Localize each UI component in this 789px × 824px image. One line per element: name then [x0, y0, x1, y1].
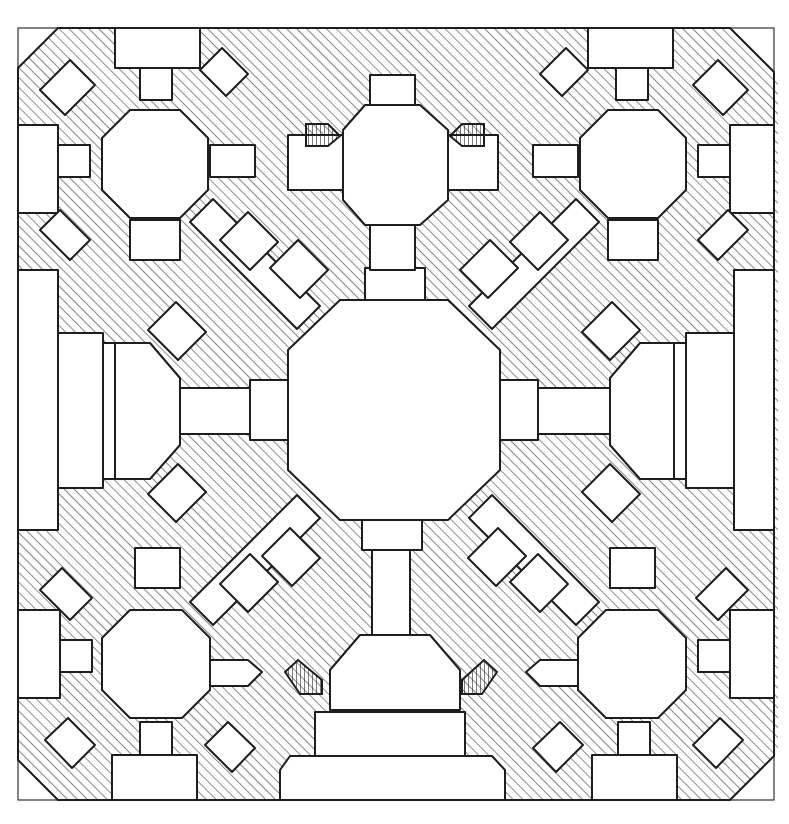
floor-plan-drawing — [0, 0, 789, 824]
